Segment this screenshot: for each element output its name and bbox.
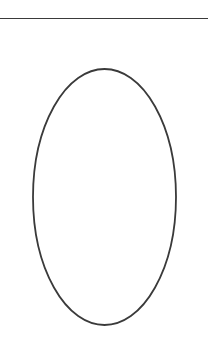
- figure-canvas: [0, 0, 208, 338]
- page-background: [0, 0, 208, 338]
- figure-page: [0, 0, 208, 338]
